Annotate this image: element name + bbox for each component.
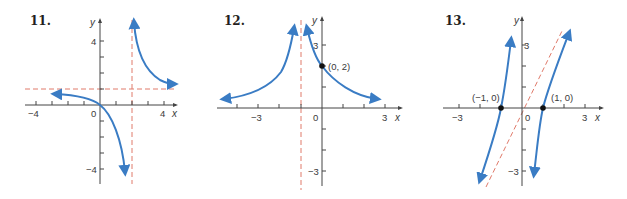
curve-left-branch	[480, 40, 511, 180]
curve-right-branch	[534, 33, 569, 174]
curve-right-branch	[134, 22, 174, 84]
svg-text:y: y	[89, 17, 96, 28]
svg-text:x: x	[171, 108, 178, 119]
svg-text:4: 4	[91, 36, 96, 47]
svg-text:−3: −3	[308, 166, 319, 177]
svg-text:−4: −4	[28, 108, 39, 119]
graph-13-plot: −3 0 3 x 3 −3 y (−1, 0) (1, 0)	[418, 0, 627, 199]
point-0-2	[319, 63, 325, 69]
svg-text:−3: −3	[251, 112, 262, 123]
graph-12: 12. −3 0 3 x 3 −3 y (0, 2)	[209, 0, 418, 199]
svg-text:3: 3	[524, 40, 529, 51]
svg-text:y: y	[513, 15, 520, 26]
graph-11-plot: −4 0 4 x 4 −4 y	[0, 0, 209, 199]
svg-text:y: y	[311, 15, 318, 26]
graph-12-plot: −3 0 3 x 3 −3 y (0, 2)	[209, 0, 418, 199]
curve-left-branch	[55, 94, 125, 172]
graph-13: 13. −3 0 3 x 3 −3 y (−1, 0) (1, 0)	[418, 0, 627, 199]
svg-text:4: 4	[160, 108, 165, 119]
svg-text:0: 0	[91, 108, 96, 119]
curve-left-branch	[224, 28, 294, 99]
svg-text:0: 0	[525, 112, 530, 123]
svg-text:−4: −4	[86, 164, 97, 175]
svg-text:−3: −3	[452, 112, 463, 123]
point-1-0	[540, 105, 546, 111]
svg-text:x: x	[594, 112, 601, 123]
svg-text:(0, 2): (0, 2)	[328, 61, 350, 72]
svg-text:(−1, 0): (−1, 0)	[472, 92, 500, 103]
svg-text:x: x	[394, 112, 401, 123]
svg-text:−3: −3	[508, 166, 519, 177]
svg-text:(1, 0): (1, 0)	[551, 92, 573, 103]
svg-text:0: 0	[313, 112, 318, 123]
graph-11: 11. −4 0 4 x 4 −4 y	[0, 0, 209, 199]
oblique-asymptote	[486, 31, 562, 187]
svg-text:3: 3	[582, 112, 587, 123]
svg-text:3: 3	[382, 112, 387, 123]
point-neg1-0	[498, 105, 504, 111]
